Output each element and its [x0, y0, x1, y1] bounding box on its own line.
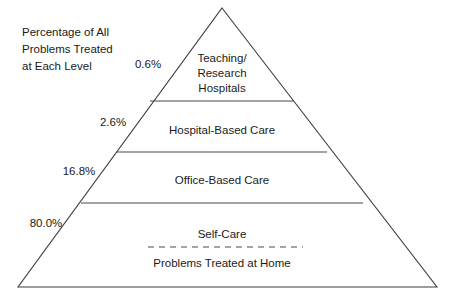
percentage-label-teaching-research-hospitals: 0.6% [135, 58, 161, 70]
caption-line-2: Problems Treated [22, 43, 113, 55]
level-label-hospital-based-care: Hospital-Based Care [169, 124, 275, 136]
level-label-office-based-care: Office-Based Care [175, 174, 269, 186]
percentage-label-hospital-based-care: 2.6% [100, 116, 126, 128]
pyramid-figure: Percentage of All Problems Treated at Ea… [0, 0, 452, 307]
level-label-self-care: Self-Care [198, 228, 247, 240]
caption-line-3: at Each Level [22, 60, 92, 72]
level-label-teaching-research-hospitals-line-1: Teaching/ [197, 52, 247, 64]
percentage-label-office-based-care: 16.8% [63, 165, 96, 177]
pyramid-diagram: Percentage of All Problems Treated at Ea… [0, 0, 452, 307]
caption-line-1: Percentage of All [22, 26, 109, 38]
percentage-label-self-care: 80.0% [30, 217, 63, 229]
sublabel-problems-treated-at-home: Problems Treated at Home [153, 257, 290, 269]
level-label-teaching-research-hospitals-line-2: Research [197, 67, 246, 79]
level-label-teaching-research-hospitals-line-3: Hospitals [198, 82, 246, 94]
